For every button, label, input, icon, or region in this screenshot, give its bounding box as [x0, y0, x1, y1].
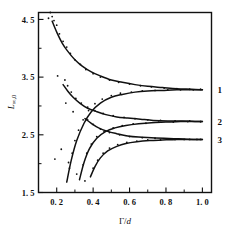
data-point	[187, 121, 189, 123]
data-point	[69, 53, 71, 55]
data-point	[87, 119, 89, 121]
curve-1-upper	[52, 21, 202, 90]
data-point	[129, 136, 131, 138]
curve-1-lower	[67, 90, 203, 182]
data-point	[192, 89, 194, 91]
data-point	[97, 159, 99, 161]
data-point	[109, 79, 111, 81]
data-point	[200, 121, 202, 123]
data-point	[196, 139, 198, 141]
data-point	[200, 88, 202, 90]
data-point	[160, 139, 162, 141]
data-point	[65, 102, 67, 104]
data-point	[140, 85, 142, 87]
series-label-1: 1	[218, 85, 223, 95]
data-point	[183, 139, 185, 141]
curve-3-lower	[90, 139, 202, 177]
y-axis-tick-labels: 1. 52. 53. 54. 5	[22, 15, 35, 198]
data-point	[82, 164, 84, 166]
x-tick-label: 0. 6	[123, 197, 136, 207]
data-point	[147, 139, 149, 141]
data-point	[158, 121, 160, 123]
data-point	[49, 12, 51, 14]
x-tick-label: 0. 2	[50, 197, 63, 207]
data-point	[76, 173, 78, 175]
x-axis-ticks	[39, 188, 203, 193]
data-point	[86, 152, 88, 154]
data-point	[90, 143, 92, 145]
data-point	[80, 102, 82, 104]
data-point	[96, 136, 98, 138]
x-axis-title: Γ/d	[119, 216, 132, 226]
data-point	[85, 69, 87, 71]
data-point	[75, 98, 77, 100]
series-annotations: 123	[218, 85, 223, 145]
data-point	[141, 137, 143, 139]
data-point	[134, 118, 136, 120]
data-point	[129, 83, 131, 85]
data-point	[71, 152, 73, 154]
y-tick-label: 2. 5	[22, 130, 35, 140]
data-point	[102, 152, 104, 154]
data-point	[78, 129, 80, 131]
data-point	[136, 140, 138, 142]
data-point	[123, 117, 125, 119]
data-point	[100, 76, 102, 78]
plot-frame	[39, 13, 212, 193]
data-point	[151, 86, 153, 88]
data-point	[121, 125, 123, 127]
data-point	[180, 89, 182, 91]
x-tick-label: 0. 4	[87, 197, 101, 207]
x-tick-label: 1. 0	[196, 197, 209, 207]
data-point	[88, 110, 90, 112]
y-tick-label: 4. 5	[22, 15, 35, 25]
x-tick-label: 0. 8	[160, 197, 173, 207]
data-point	[172, 121, 174, 123]
data-point	[117, 144, 119, 146]
data-point	[174, 139, 176, 141]
data-point	[59, 33, 61, 35]
data-point	[102, 113, 104, 115]
data-point	[92, 124, 94, 126]
data-point	[53, 20, 55, 22]
data-point	[109, 147, 111, 149]
data-point	[141, 90, 143, 92]
y-tick-label: 1. 5	[22, 188, 35, 198]
data-point	[92, 167, 94, 169]
y-axis-ticks	[39, 19, 44, 192]
data-point	[176, 88, 178, 90]
data-point	[154, 89, 156, 91]
data-point	[51, 16, 53, 18]
data-point	[110, 95, 112, 97]
data-point	[167, 89, 169, 91]
data-point	[64, 79, 66, 81]
data-point	[118, 81, 120, 83]
data-point	[68, 162, 70, 164]
data-point	[174, 120, 176, 122]
data-point	[189, 139, 191, 141]
data-point	[62, 40, 64, 42]
data-point	[92, 73, 94, 75]
data-curves	[52, 21, 202, 182]
data-point	[82, 119, 84, 121]
x-axis-tick-labels: 0. 20. 40. 60. 81. 0	[50, 197, 208, 207]
data-point	[48, 17, 50, 19]
data-point	[56, 24, 58, 26]
data-point	[66, 46, 68, 48]
data-point	[120, 92, 122, 94]
data-point	[67, 85, 69, 87]
data-point	[119, 134, 121, 136]
data-point	[130, 91, 132, 93]
series-label-3: 3	[218, 135, 223, 145]
data-point	[94, 110, 96, 112]
data-point	[126, 141, 128, 143]
data-point	[145, 122, 147, 124]
data-point	[72, 111, 74, 113]
data-point	[160, 119, 162, 121]
data-point	[84, 180, 86, 182]
data-point	[189, 120, 191, 122]
data-point	[70, 91, 72, 93]
data-point	[57, 75, 59, 77]
chart-canvas: 0. 20. 40. 60. 81. 0 1. 52. 53. 54. 5 12…	[0, 0, 237, 236]
chart-figure: 0. 20. 40. 60. 81. 0 1. 52. 53. 54. 5 12…	[0, 0, 237, 236]
